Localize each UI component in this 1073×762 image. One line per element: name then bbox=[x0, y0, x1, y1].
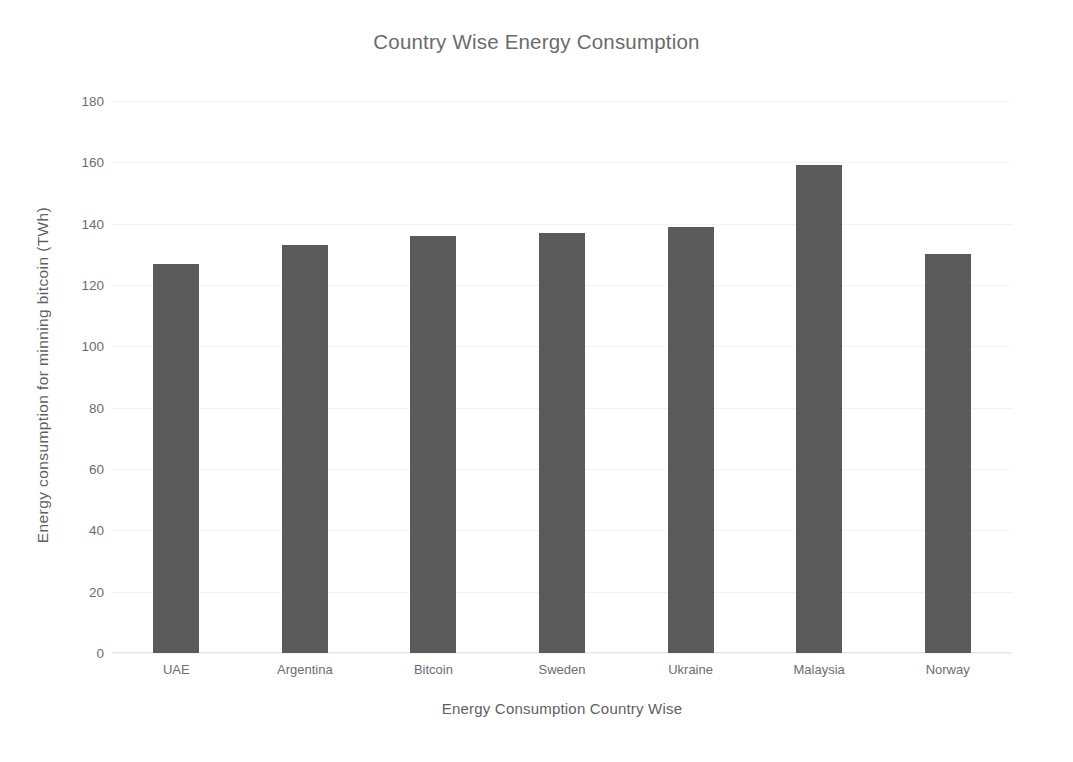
x-axis-tick-label: Ukraine bbox=[668, 662, 713, 677]
plot-area bbox=[112, 101, 1012, 653]
bar-slot bbox=[498, 101, 627, 653]
x-axis-tick-label: Malaysia bbox=[793, 662, 844, 677]
y-axis-tick-label: 80 bbox=[58, 400, 104, 415]
bar-sweden[interactable] bbox=[539, 233, 585, 653]
bar-slot bbox=[883, 101, 1012, 653]
x-axis-tick-label: Bitcoin bbox=[414, 662, 453, 677]
y-axis-tick-label: 40 bbox=[58, 523, 104, 538]
bar-slot bbox=[241, 101, 370, 653]
y-axis-tick-label: 20 bbox=[58, 584, 104, 599]
x-axis-tick-label: UAE bbox=[163, 662, 190, 677]
y-axis-tick-label: 60 bbox=[58, 462, 104, 477]
bar-slot bbox=[626, 101, 755, 653]
x-axis-tick-label: Norway bbox=[926, 662, 970, 677]
x-axis-tick-labels: UAEArgentinaBitcoinSwedenUkraineMalaysia… bbox=[112, 662, 1012, 686]
chart-title: Country Wise Energy Consumption bbox=[0, 30, 1073, 54]
y-axis-tick-label: 120 bbox=[58, 278, 104, 293]
bar-series bbox=[112, 101, 1012, 653]
y-axis-tick-label: 140 bbox=[58, 216, 104, 231]
bar-malaysia[interactable] bbox=[796, 165, 842, 653]
y-axis-tick-label: 160 bbox=[58, 155, 104, 170]
bar-slot bbox=[755, 101, 884, 653]
bar-slot bbox=[369, 101, 498, 653]
y-axis-tick-labels: 020406080100120140160180 bbox=[52, 101, 104, 653]
bar-slot bbox=[112, 101, 241, 653]
bar-chart: Country Wise Energy Consumption Energy c… bbox=[0, 0, 1073, 762]
y-axis-tick-label: 180 bbox=[58, 94, 104, 109]
bar-argentina[interactable] bbox=[282, 245, 328, 653]
bar-ukraine[interactable] bbox=[668, 227, 714, 653]
y-axis-tick-label: 100 bbox=[58, 339, 104, 354]
x-axis-tick-label: Sweden bbox=[539, 662, 586, 677]
gridline bbox=[112, 653, 1012, 654]
y-axis-tick-label: 0 bbox=[58, 646, 104, 661]
bar-norway[interactable] bbox=[925, 254, 971, 653]
bar-uae[interactable] bbox=[153, 264, 199, 653]
x-axis-tick-label: Argentina bbox=[277, 662, 333, 677]
bar-bitcoin[interactable] bbox=[410, 236, 456, 653]
x-axis-title: Energy Consumption Country Wise bbox=[112, 700, 1012, 717]
